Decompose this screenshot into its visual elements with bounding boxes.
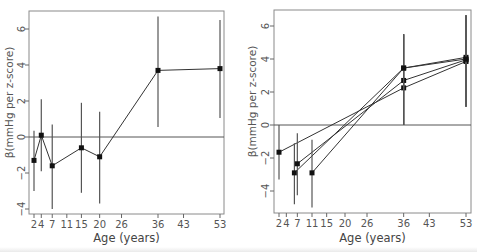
series-line [297, 60, 466, 164]
series-line [34, 69, 220, 166]
x-tick-label: 43 [423, 218, 436, 229]
y-tick-label: 4 [260, 56, 271, 62]
x-tick-label: 2 [276, 218, 282, 229]
x-tick-label: 36 [397, 218, 410, 229]
data-point-marker [292, 170, 297, 175]
data-series [295, 15, 469, 195]
x-tick-label: 2 [31, 219, 37, 230]
data-series [32, 16, 223, 209]
caption-cutoff [0, 247, 477, 252]
y-tick-label: 6 [16, 26, 27, 32]
series-line [294, 57, 466, 173]
y-tick-label: −4 [260, 184, 271, 199]
y-tick-label: 6 [260, 23, 271, 29]
left-panel: −4−2024624711152026364353Age (years)β(mm… [3, 11, 226, 245]
series-line [279, 61, 466, 152]
data-point-marker [277, 150, 282, 155]
data-series [310, 15, 469, 207]
data-point-marker [156, 68, 161, 73]
y-axis-label: β(mmHg per z-score) [3, 47, 15, 159]
data-point-marker [310, 170, 315, 175]
x-tick-label: 7 [49, 219, 55, 230]
x-tick-label: 53 [460, 218, 473, 229]
data-point-marker [97, 154, 102, 159]
y-tick-label: −2 [16, 166, 27, 181]
x-tick-label: 15 [320, 218, 333, 229]
plot-frame [274, 10, 471, 213]
x-tick-label: 15 [75, 219, 88, 230]
plot-frame [29, 11, 224, 214]
x-tick-label: 36 [152, 219, 165, 230]
x-tick-label: 43 [177, 219, 190, 230]
x-tick-label: 26 [115, 219, 128, 230]
series-line [312, 59, 466, 173]
y-tick-label: 0 [260, 122, 271, 128]
y-tick-label: 4 [16, 62, 27, 68]
data-point-marker [464, 57, 469, 62]
right-panel: −4−2024624711152026364353Age (years)β(mm… [246, 10, 472, 245]
x-tick-label: 53 [214, 219, 227, 230]
x-axis-label: Age (years) [339, 231, 406, 245]
data-point-marker [50, 163, 55, 168]
y-tick-label: 2 [260, 89, 271, 95]
x-tick-label: 7 [294, 218, 300, 229]
y-tick-label: 2 [16, 98, 27, 104]
data-point-marker [295, 161, 300, 166]
data-series [292, 15, 469, 204]
x-tick-label: 26 [361, 218, 374, 229]
data-point-marker [39, 133, 44, 138]
x-tick-label: 4 [38, 219, 44, 230]
x-tick-label: 4 [283, 218, 289, 229]
data-point-marker [79, 145, 84, 150]
x-axis-label: Age (years) [93, 231, 160, 245]
x-tick-label: 11 [60, 219, 73, 230]
y-tick-label: 0 [16, 134, 27, 140]
y-tick-label: −4 [16, 202, 27, 217]
chart-figure: −4−2024624711152026364353Age (years)β(mm… [0, 0, 477, 252]
data-point-marker [401, 66, 406, 71]
y-tick-label: −2 [260, 151, 271, 166]
data-point-marker [32, 158, 37, 163]
y-axis-label: β(mmHg per z-score) [246, 46, 258, 158]
x-tick-label: 11 [306, 218, 319, 229]
x-tick-label: 20 [93, 219, 106, 230]
data-point-marker [218, 66, 223, 71]
x-tick-label: 20 [339, 218, 352, 229]
